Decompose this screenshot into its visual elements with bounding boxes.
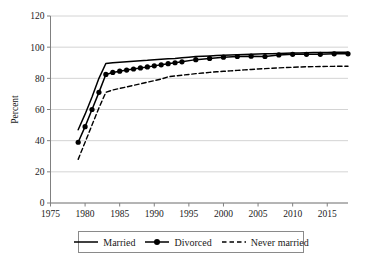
x-ticks [51, 203, 328, 207]
y-axis-title: Percent [10, 95, 20, 124]
x-tick-labels: 197519801985199019952000200520102015 [41, 209, 337, 219]
svg-text:0: 0 [40, 198, 45, 208]
svg-text:1985: 1985 [110, 209, 129, 219]
svg-text:1975: 1975 [41, 209, 60, 219]
legend-entry-divorced: Divorced [144, 237, 211, 248]
svg-text:2015: 2015 [318, 209, 337, 219]
svg-text:100: 100 [30, 43, 45, 53]
y-ticks [47, 16, 51, 203]
svg-text:1995: 1995 [179, 209, 198, 219]
series-lines [78, 52, 348, 159]
svg-text:2000: 2000 [214, 209, 233, 219]
svg-text:1990: 1990 [145, 209, 164, 219]
svg-text:2010: 2010 [283, 209, 302, 219]
svg-text:Percent: Percent [10, 95, 20, 124]
legend-entry-never-married: Never married [221, 237, 309, 248]
legend-label-never-married: Never married [251, 237, 309, 248]
series-markers [76, 51, 351, 145]
svg-text:1980: 1980 [76, 209, 95, 219]
legend-label-divorced: Divorced [174, 237, 211, 248]
line-chart: 020406080100120 197519801985199019952000… [0, 0, 366, 266]
svg-text:80: 80 [35, 74, 45, 84]
y-gridlines [51, 16, 349, 203]
y-tick-labels: 020406080100120 [30, 11, 45, 208]
svg-text:20: 20 [35, 167, 45, 177]
svg-text:120: 120 [30, 11, 45, 21]
svg-text:60: 60 [35, 105, 45, 115]
legend-entry-married: Married [73, 237, 135, 248]
legend-swatch-never-married [221, 237, 247, 247]
chart-figure: 020406080100120 197519801985199019952000… [0, 0, 366, 266]
legend-swatch-divorced [144, 237, 170, 247]
chart-legend: Married Divorced Never married [78, 231, 304, 253]
svg-text:40: 40 [35, 136, 45, 146]
legend-swatch-married [73, 237, 99, 247]
legend-label-married: Married [103, 237, 135, 248]
svg-text:2005: 2005 [249, 209, 268, 219]
